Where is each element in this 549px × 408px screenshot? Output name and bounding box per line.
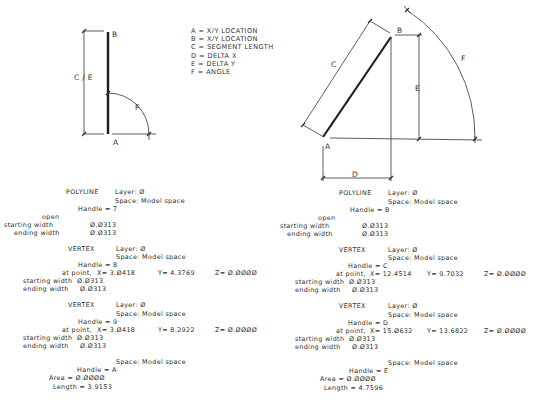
starting-width-label: starting width — [280, 222, 329, 230]
seqend-length: Length = 4.7596 — [324, 384, 383, 392]
starting-width-label: starting width — [295, 335, 344, 343]
starting-width-value: Ø.Ø313 — [77, 277, 103, 285]
starting-width-label: starting width — [23, 334, 72, 342]
vertex-title: VERTEX — [68, 245, 95, 253]
polyline-space: Space: Model space — [115, 197, 185, 205]
vertex-y: Y= 9.7032 — [427, 270, 464, 278]
ending-width-label: ending width — [23, 285, 69, 293]
ending-width-value: Ø.Ø313 — [90, 229, 116, 237]
left-label-a: A — [113, 138, 119, 147]
left-label-f: F — [135, 103, 140, 112]
right-label-b: B — [397, 26, 402, 35]
legend: A = X/Y LOCATION B = X/Y LOCATION C = SE… — [191, 27, 274, 76]
starting-width-value: Ø.Ø313 — [77, 334, 103, 342]
vertex-layer: Layer: Ø — [388, 246, 418, 254]
polyline-title: POLYLINE — [339, 189, 372, 197]
polyline-layer: Layer: Ø — [388, 189, 418, 197]
seqend-area: Area = Ø.ØØØØ — [49, 374, 105, 382]
vertex-layer: Layer: Ø — [116, 245, 146, 253]
right-angle-baseline — [330, 138, 482, 140]
vertex-z: Z= Ø.ØØØØ — [484, 270, 526, 278]
ending-width-value: Ø.Ø313 — [352, 343, 378, 351]
vertex-x: X= 3.Ø418 — [97, 326, 135, 334]
vertex-at-point: at point, — [62, 326, 92, 334]
ending-width-label: ending width — [23, 342, 69, 350]
legend-item: F = ANGLE — [191, 68, 274, 76]
right-polyline-segment — [323, 37, 391, 137]
vertex-title: VERTEX — [68, 301, 95, 309]
vertex-y: Y= 13.6822 — [427, 327, 468, 335]
vertex-space: Space: Model space — [388, 254, 458, 262]
left-angle-arc — [108, 93, 149, 134]
polyline-handle: Handle = B — [350, 206, 390, 214]
vertex-layer: Layer: Ø — [116, 301, 146, 309]
legend-item: C = SEGMENT LENGTH — [191, 43, 274, 51]
starting-width-label: starting width — [4, 221, 53, 229]
polyline-handle: Handle = 7 — [78, 205, 118, 213]
left-label-ce: C / E — [74, 73, 93, 82]
ending-width-label: ending width — [14, 229, 60, 237]
right-label-e: E — [415, 84, 420, 93]
legend-item: B = X/Y LOCATION — [191, 35, 274, 43]
vertex-at-point: at point, — [336, 270, 366, 278]
vertex-handle: Handle = D — [348, 319, 388, 327]
ending-width-label: ending width — [295, 286, 341, 294]
vertex-title: VERTEX — [339, 246, 366, 254]
seqend-length: Length = 3.9153 — [53, 383, 112, 391]
right-label-d: D — [352, 170, 358, 179]
vertex-at-point: at point, — [62, 269, 92, 277]
right-diagram — [301, 6, 482, 181]
right-label-a: A — [325, 142, 331, 151]
ending-width-value: Ø.Ø313 — [80, 285, 106, 293]
ending-width-label: ending width — [295, 343, 341, 351]
vertex-handle: Handle = 8 — [78, 261, 118, 269]
polyline-space: Space: Model space — [388, 198, 458, 206]
polyline-layer: Layer: Ø — [115, 188, 145, 196]
legend-item: E = DELTA Y — [191, 60, 274, 68]
legend-item: D = DELTA X — [191, 52, 274, 60]
legend-item: A = X/Y LOCATION — [191, 27, 274, 35]
vertex-layer: Layer: Ø — [388, 302, 418, 310]
starting-width-value: Ø.Ø313 — [349, 278, 375, 286]
vertex-y: Y= 4.3769 — [158, 269, 195, 277]
vertex-at-point: at point, — [336, 327, 366, 335]
left-diagram — [82, 29, 156, 140]
right-dimension-c — [303, 21, 370, 125]
ending-width-value: Ø.Ø313 — [362, 230, 388, 238]
ending-width-value: Ø.Ø313 — [352, 286, 378, 294]
vertex-z: Z= Ø.ØØØØ — [215, 326, 257, 334]
ending-width-label: ending width — [287, 230, 333, 238]
seqend-space: Space: Model space — [116, 358, 186, 366]
vertex-y: Y= 8.2922 — [158, 326, 195, 334]
vertex-x: X= 3.Ø418 — [97, 269, 135, 277]
vertex-z: Z= Ø.ØØØØ — [484, 327, 526, 335]
ending-width-value: Ø.Ø313 — [80, 342, 106, 350]
vertex-z: Z= Ø.ØØØØ — [215, 269, 257, 277]
starting-width-value: Ø.Ø313 — [90, 221, 116, 229]
seqend-handle: Handle = A — [77, 366, 117, 374]
vertex-x: X= 15.Ø632 — [370, 327, 413, 335]
starting-width-label: starting width — [23, 277, 72, 285]
vertex-space: Space: Model space — [388, 311, 458, 319]
polyline-open: open — [318, 214, 335, 222]
right-label-f: F — [461, 54, 466, 63]
vertex-title: VERTEX — [339, 302, 366, 310]
left-label-b: B — [112, 30, 117, 39]
seqend-space: Space: Model space — [388, 359, 458, 367]
vertex-handle: Handle = 9 — [78, 318, 118, 326]
polyline-open: open — [42, 213, 59, 221]
vertex-space: Space: Model space — [116, 310, 186, 318]
starting-width-value: Ø.Ø313 — [349, 335, 375, 343]
polyline-title: POLYLINE — [66, 188, 99, 196]
right-label-c: C — [331, 60, 337, 69]
seqend-handle: Handle = E — [349, 367, 389, 375]
vertex-handle: Handle = C — [348, 262, 388, 270]
starting-width-label: starting width — [295, 278, 344, 286]
seqend-area: Area = Ø.ØØØØ — [320, 375, 376, 383]
right-angle-arc — [407, 10, 475, 139]
vertex-x: X= 12.4514 — [370, 270, 412, 278]
starting-width-value: Ø.Ø313 — [362, 222, 388, 230]
vertex-space: Space: Model space — [116, 253, 186, 261]
